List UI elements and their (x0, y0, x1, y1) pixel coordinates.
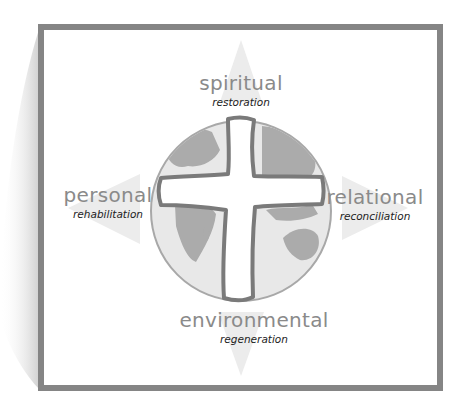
environmental-title: environmental (179, 309, 328, 331)
spiritual-title: spiritual (199, 72, 282, 94)
relational-subtitle: reconciliation (326, 209, 423, 223)
personal-subtitle: rehabilitation (64, 207, 153, 221)
label-spiritual: spiritual restoration (199, 72, 282, 109)
spiritual-subtitle: restoration (199, 95, 282, 109)
label-relational: relational reconciliation (326, 186, 423, 223)
label-environmental: environmental regeneration (179, 309, 328, 346)
relational-title: relational (326, 186, 423, 208)
environmental-subtitle: regeneration (179, 332, 328, 346)
label-personal: personal rehabilitation (64, 184, 153, 221)
personal-title: personal (64, 184, 153, 206)
